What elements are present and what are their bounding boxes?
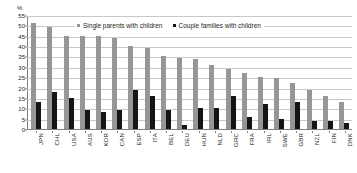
bar-couple-families (328, 121, 333, 129)
y-axis-tick-label: 0 (11, 127, 25, 133)
y-axis-tick-mark (25, 36, 27, 37)
x-axis-tick-label: KOR (103, 133, 109, 147)
x-axis-line (27, 129, 352, 130)
x-axis-label-cell: FIN (321, 131, 337, 173)
bar-group (125, 16, 141, 129)
bar-couple-families (101, 112, 106, 129)
y-axis-tick-mark (25, 26, 27, 27)
bar-group (77, 16, 93, 129)
x-axis-tick-label: USA (71, 133, 77, 146)
legend-label-couple: Couple families with children (179, 22, 261, 29)
x-axis-tick-mark (150, 131, 151, 133)
legend-label-single: Single parents with children (83, 22, 163, 29)
x-axis-tick-mark (329, 131, 330, 133)
bar-chart: % Single parents with children Couple fa… (0, 0, 357, 173)
x-axis-label-cell: DNK (337, 131, 353, 173)
bar-group (287, 16, 303, 129)
x-axis-tick-mark (166, 131, 167, 133)
legend-item-couple-families: Couple families with children (173, 22, 261, 29)
bar-group (239, 16, 255, 129)
bar-couple-families (52, 92, 57, 129)
x-axis-label-cell: CHL (44, 131, 60, 173)
y-axis-tick-mark (25, 98, 27, 99)
x-axis-label-cell: NLD (207, 131, 223, 173)
y-axis-tick-label: 45 (11, 34, 25, 40)
bar-group (320, 16, 336, 129)
x-axis-tick-label: FIN (331, 133, 337, 143)
x-axis-label-cell: FRA (239, 131, 255, 173)
bar-couple-families (231, 96, 236, 129)
x-axis-label-cell: GRC (223, 131, 239, 173)
bar-group (190, 16, 206, 129)
x-axis-label-cell: SWE (272, 131, 288, 173)
x-axis-tick-mark (69, 131, 70, 133)
bar-couple-families (312, 121, 317, 129)
bar-couple-families (198, 108, 203, 129)
y-axis-tick-label: 30 (11, 65, 25, 71)
bar-group (174, 16, 190, 129)
x-axis-tick-label: FRA (249, 133, 255, 146)
y-axis-tick-mark (25, 16, 27, 17)
y-axis-tick-mark (25, 88, 27, 89)
plot-area: 0510152025303540455055 (27, 16, 352, 130)
x-axis-label-cell: DEU (174, 131, 190, 173)
bar-couple-families (344, 123, 349, 129)
x-axis-label-cell: CAN (109, 131, 125, 173)
bar-couple-families (85, 110, 90, 129)
legend-item-single-parents: Single parents with children (77, 22, 163, 29)
x-axis-tick-mark (36, 131, 37, 133)
bar-group (141, 16, 157, 129)
y-axis-tick-mark (25, 57, 27, 58)
x-axis-tick-label: CHL (54, 133, 60, 146)
bar-group (158, 16, 174, 129)
bar-couple-families (214, 108, 219, 129)
bar-couple-families (117, 110, 122, 129)
bar-group (44, 16, 60, 129)
y-axis-tick-mark (25, 67, 27, 68)
bar-couple-families (182, 125, 187, 129)
x-axis-label-cell: JPN (28, 131, 44, 173)
bar-couple-families (36, 102, 41, 129)
bar-group (303, 16, 319, 129)
x-axis-tick-label: NZL (314, 133, 320, 145)
y-axis-tick-mark (25, 47, 27, 48)
x-axis-tick-mark (296, 131, 297, 133)
x-axis-tick-mark (231, 131, 232, 133)
bar-group (28, 16, 44, 129)
x-axis-tick-mark (345, 131, 346, 133)
x-axis-tick-mark (101, 131, 102, 133)
x-axis-label-cell: IRL (256, 131, 272, 173)
x-axis-tick-label: ESP (136, 133, 142, 146)
bar-group (271, 16, 287, 129)
bar-couple-families (279, 119, 284, 129)
bar-couple-families (295, 102, 300, 129)
x-axis-label-cell: BEL (158, 131, 174, 173)
bar-group (93, 16, 109, 129)
bar-couple-families (247, 117, 252, 129)
bar-series-container (28, 16, 352, 129)
x-axis-label-cell: ITA (142, 131, 158, 173)
bar-group (60, 16, 76, 129)
y-axis-tick-label: 50 (11, 23, 25, 29)
y-axis-tick-label: 15 (11, 96, 25, 102)
x-axis-tick-label: JPN (38, 133, 44, 145)
legend-swatch-icon-single (77, 24, 80, 27)
bar-group (222, 16, 238, 129)
bar-group (109, 16, 125, 129)
bar-couple-families (263, 104, 268, 129)
x-axis-label-cell: AUS (77, 131, 93, 173)
y-axis-tick-label: 10 (11, 106, 25, 112)
x-axis-tick-label: ITA (152, 133, 158, 143)
x-axis-label-cell: HUN (191, 131, 207, 173)
x-axis-label-cell: NZL (304, 131, 320, 173)
y-axis-tick-mark (25, 119, 27, 120)
y-axis-unit-label: % (17, 5, 22, 11)
x-axis-tick-mark (215, 131, 216, 133)
x-axis-tick-label: HUN (201, 133, 207, 147)
y-axis-tick-label: 40 (11, 44, 25, 50)
y-axis-tick-label: 35 (11, 54, 25, 60)
bar-group (206, 16, 222, 129)
x-axis-tick-mark (264, 131, 265, 133)
x-axis-tick-label: IRL (266, 133, 272, 143)
x-axis-tick-mark (134, 131, 135, 133)
